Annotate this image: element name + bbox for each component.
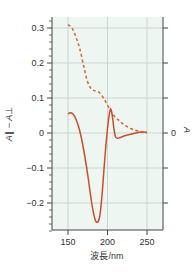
x-axis-label: 波長/nm	[90, 250, 123, 261]
y-axis-label: A∥ − A⊥	[4, 107, 14, 142]
y-tick-label: −0.1	[26, 163, 44, 173]
y-tick-label: 0.2	[31, 58, 44, 68]
ld-spectrum-chart: 1502002500.30.20.10−0.1−0.20 波長/nm A∥ − …	[0, 0, 196, 280]
right-y-axis-label: A	[182, 126, 192, 133]
x-tick-label: 250	[139, 237, 154, 247]
y-tick-label: 0.3	[31, 23, 44, 33]
right-y-tick-label: 0	[171, 128, 176, 138]
y-tick-label: −0.2	[26, 198, 44, 208]
x-tick-label: 200	[100, 237, 115, 247]
x-tick-label: 150	[60, 237, 75, 247]
y-tick-label: 0.1	[31, 93, 44, 103]
y-tick-label: 0	[39, 128, 44, 138]
